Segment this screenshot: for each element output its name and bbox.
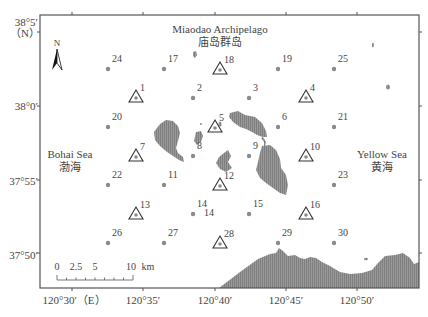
north-arrow-icon [52,49,57,70]
scale-unit: km [142,261,155,272]
island-central [216,150,232,172]
lon-label: 120°40′ [198,294,232,306]
station-label: 19 [282,53,292,64]
station-29: 29 [276,227,292,245]
station-dot-icon [191,154,195,158]
station-11: 11 [162,169,178,187]
lon-label: 120°50′ [340,294,374,306]
station-dot-icon [332,125,336,129]
station-dot-icon [276,67,280,71]
station-dot-icon [191,212,195,216]
isthmus [261,137,266,146]
station-label: 15 [253,198,263,209]
station-dot-icon [162,183,166,187]
station-label: 16 [310,199,320,210]
islet-ne-1 [372,43,374,48]
station-dot-icon [162,67,166,71]
station-17: 17 [162,53,178,71]
station-label: 6 [282,111,287,122]
station-dot-icon [106,241,110,245]
lon-label: 120°35′ [126,294,160,306]
island-west [154,120,184,162]
yellow-sea-label-cn: 黄海 [371,160,393,173]
station-20: 20 [106,111,122,129]
archipelago-title-cn: 庙岛群岛 [198,35,242,48]
lat-unit-label: （N） [10,27,40,39]
bohai-sea-label-cn: 渤海 [59,160,81,173]
station-label: 8 [197,140,202,151]
north-arrow-label: N [54,38,61,48]
station-label: 2 [197,82,202,93]
station-21: 21 [332,111,348,129]
station-label: 4 [310,82,315,93]
lat-label: 38°0′ [15,100,38,112]
station-dot-icon [332,241,336,245]
station-label: 22 [112,169,122,180]
station-5: 5 [208,112,224,132]
station-label: 5 [219,112,224,123]
scale-bar: 0 2.5 5 10 km [55,261,155,280]
station-label: 13 [140,199,150,210]
station-label: 21 [338,111,348,122]
station-label: 27 [168,227,178,238]
station-dot-icon [332,67,336,71]
bohai-sea-label-en: Bohai Sea [48,148,93,160]
station-3: 3 [247,82,258,100]
station-1: 1 [129,82,145,102]
station-13: 13 [129,199,150,219]
station-23: 23 [332,169,348,187]
station-label: 28 [224,228,234,239]
station-dot-icon [106,183,110,187]
station-15: 15 [247,198,263,216]
station-dot-icon [247,96,251,100]
station-label: 3 [253,82,258,93]
station-28: 28 [213,228,234,248]
station-6: 6 [276,111,287,129]
yellow-sea-label-en: Yellow Sea [357,148,407,160]
scale-label: 2.5 [70,261,83,272]
station-label: 29 [282,227,292,238]
station-8: 8 [191,140,202,158]
lat-label: 37°55′ [9,175,38,187]
station-4: 4 [299,82,315,102]
station-label: 20 [112,111,122,122]
station-label: 9 [253,140,258,151]
station-label-duplicate: 14 [204,207,214,218]
station-dot-icon [247,212,251,216]
station-dot-icon [276,241,280,245]
station-2: 2 [191,82,202,100]
station-22: 22 [106,169,122,187]
station-27: 27 [162,227,178,245]
scale-label: 5 [93,261,98,272]
station-dot-icon [276,125,280,129]
station-label: 7 [140,141,145,152]
station-24: 24 [106,53,122,71]
islet [364,258,368,261]
mainland-coast [219,248,419,288]
island-south-changshan [256,145,288,195]
north-arrow: N [52,38,62,70]
latitude-labels: 38°5′ （N） 38°0′ 37°55′ 37°50′ [9,16,40,261]
islet-north [193,51,197,58]
station-19: 19 [276,53,292,71]
lon-label: 120°30′（E） [42,294,105,306]
station-dot-icon [162,241,166,245]
islet [200,123,202,125]
station-label: 12 [224,170,234,181]
longitude-labels: 120°30′（E） 120°35′ 120°40′ 120°45′ 120°5… [42,294,374,306]
islet-ne-2 [386,85,390,90]
station-dot-icon [332,183,336,187]
station-label: 26 [112,227,122,238]
station-26: 26 [106,227,122,245]
station-label: 1 [140,82,145,93]
station-dot-icon [106,67,110,71]
station-10: 10 [299,141,320,161]
station-label: 25 [338,53,348,64]
station-label: 17 [168,53,178,64]
station-30: 30 [332,227,348,245]
scale-label: 10 [126,261,136,272]
stations-layer: 1234567891011121314151617181920212223242… [106,53,348,248]
station-label: 18 [224,54,234,65]
station-12: 12 [213,170,234,190]
station-label: 23 [338,169,348,180]
